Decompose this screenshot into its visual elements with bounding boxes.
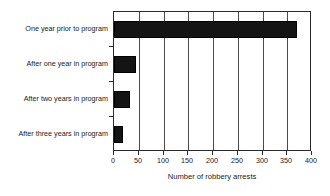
x-axis-tick-400 [311,151,312,155]
x-axis-tick-0 [113,151,114,155]
x-axis-tick-300 [262,151,263,155]
x-axis-tick-50 [138,151,139,155]
x-axis-tick-100 [163,151,164,155]
robbery-arrests-bar-chart: One year prior to programAfter one year … [0,0,330,196]
x-axis-tick-250 [237,151,238,155]
category-label: After two years in program [24,95,108,103]
category-label: After three years in program [19,130,108,138]
y-axis-tick [109,46,113,47]
x-axis-tick-label: 250 [231,156,243,165]
x-axis-tick-label: 300 [256,156,268,165]
x-axis-tick-350 [286,151,287,155]
x-axis-tick-label: 100 [157,156,169,165]
y-axis-tick [109,81,113,82]
x-axis-tick-150 [187,151,188,155]
y-axis-tick [109,116,113,117]
category-label: One year prior to program [25,25,108,33]
bar [114,126,123,143]
bar [114,91,130,108]
x-axis-tick-label: 350 [280,156,292,165]
bar [114,21,297,38]
category-axis-labels: One year prior to programAfter one year … [0,11,111,151]
x-axis-title: Number of robbery arrests [113,172,311,181]
plot-area [113,11,311,151]
x-axis-tick-label: 150 [181,156,193,165]
x-axis-tick-200 [212,151,213,155]
x-axis-tick-label: 0 [111,156,115,165]
x-axis-tick-label: 400 [305,156,317,165]
category-label: After one year in program [27,60,109,68]
bar [114,56,136,73]
x-axis-tick-label: 50 [134,156,142,165]
x-axis-tick-label: 200 [206,156,218,165]
